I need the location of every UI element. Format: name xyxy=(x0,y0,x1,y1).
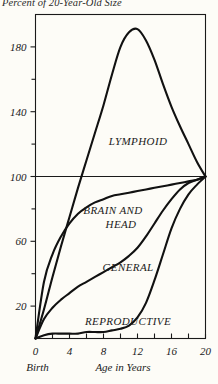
x-tick-label: 16 xyxy=(166,345,178,357)
x-axis-tick-labels: 048121620 xyxy=(33,345,212,357)
y-tick-label: 60 xyxy=(16,235,28,247)
y-tick-label: 180 xyxy=(10,41,27,53)
chart-plot-area: 2060100140180 048121620 LYMPHOIDBRAIN AN… xyxy=(0,0,218,384)
y-axis-tick-labels: 2060100140180 xyxy=(10,41,27,312)
y-tick-label: 100 xyxy=(10,171,27,183)
curve-label-general: GENERAL xyxy=(102,261,153,273)
axis-ticks xyxy=(31,47,206,339)
curve-label-reproductive: REPRODUCTIVE xyxy=(84,315,171,327)
x-tick-label: 8 xyxy=(101,345,107,357)
x-tick-label: 12 xyxy=(132,345,144,357)
x-axis-label: Age in Years xyxy=(94,361,150,373)
curve-label-lymphoid: LYMPHOID xyxy=(108,135,168,147)
curve-annotations: LYMPHOIDBRAIN ANDHEADGENERALREPRODUCTIVE xyxy=(83,135,171,327)
y-tick-label: 140 xyxy=(10,106,27,118)
curve-label-brain-and-head: BRAIN AND xyxy=(83,204,142,216)
x-tick-label: 4 xyxy=(67,345,73,357)
x-tick-label: 20 xyxy=(200,345,212,357)
origin-birth-label: Birth xyxy=(26,361,49,373)
curve-label-brain-and-head-line2: HEAD xyxy=(105,218,137,230)
curve-group xyxy=(36,29,206,339)
x-tick-label: 0 xyxy=(33,345,39,357)
growth-curves-chart: Percent of 20-Year-Old Size 206010014018… xyxy=(0,0,218,384)
y-tick-label: 20 xyxy=(16,300,28,312)
